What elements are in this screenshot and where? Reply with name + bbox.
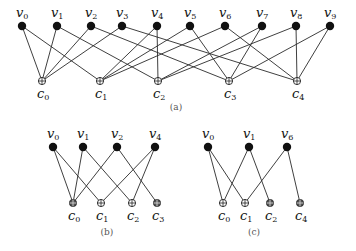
variable-node-v5: v5 bbox=[184, 5, 196, 30]
filled-circle-icon bbox=[87, 22, 95, 30]
variable-label: v1 bbox=[51, 5, 63, 21]
check-label: c2 bbox=[265, 208, 277, 224]
tanner-graph-b: v0v1v2v4c0c1c2c3(b) bbox=[47, 126, 164, 237]
check-label: c3 bbox=[152, 208, 164, 224]
edge-v0-c0 bbox=[208, 147, 223, 203]
check-label: c2 bbox=[127, 208, 139, 224]
subscript: 7 bbox=[263, 12, 268, 21]
check-node-c3: c3 bbox=[224, 77, 236, 102]
edge-v5-c1 bbox=[100, 26, 190, 81]
variable-node-v9: v9 bbox=[324, 5, 336, 30]
edge-v0-c0 bbox=[53, 147, 73, 203]
caption-c: (c) bbox=[248, 227, 260, 237]
edge-v1-c0 bbox=[73, 147, 83, 203]
subscript: 2 bbox=[134, 215, 139, 224]
variable-node-v1: v1 bbox=[51, 5, 63, 30]
subscript: 2 bbox=[272, 215, 277, 224]
filled-circle-icon bbox=[79, 143, 87, 151]
edge-v6-c4 bbox=[225, 26, 297, 81]
edge-v0-c1 bbox=[22, 26, 100, 81]
variable-node-v1: v1 bbox=[77, 126, 89, 151]
subscript: 9 bbox=[331, 12, 336, 21]
filled-circle-icon bbox=[204, 143, 212, 151]
subscript: 4 bbox=[158, 12, 163, 21]
variable-node-v0: v0 bbox=[16, 5, 28, 30]
subscript: 2 bbox=[160, 93, 165, 102]
subscript: 0 bbox=[75, 215, 80, 224]
subscript: 4 bbox=[299, 93, 304, 102]
variable-label: v0 bbox=[202, 126, 214, 142]
variable-label: v4 bbox=[151, 5, 163, 21]
check-label: c4 bbox=[292, 86, 304, 102]
variable-node-v1: v1 bbox=[243, 126, 255, 151]
variable-node-v4: v4 bbox=[149, 126, 161, 151]
edge-v1-c2 bbox=[57, 26, 158, 81]
variable-label: v1 bbox=[243, 126, 255, 142]
edge-v4-c1 bbox=[100, 26, 157, 81]
tanner-graph-figure: v0v1v2v3v4v5v6v7v8v9c0c1c2c3c4(a) v0v1v2… bbox=[0, 0, 356, 251]
check-label: c1 bbox=[95, 86, 107, 102]
filled-circle-icon bbox=[153, 22, 161, 30]
subscript: 2 bbox=[118, 133, 123, 142]
check-label: c0 bbox=[37, 86, 49, 102]
edges bbox=[208, 147, 300, 203]
variable-label: v8 bbox=[290, 5, 302, 21]
filled-circle-icon bbox=[18, 22, 26, 30]
subscript: 1 bbox=[250, 133, 255, 142]
variable-label: v6 bbox=[281, 126, 293, 142]
subscript: 3 bbox=[231, 93, 236, 102]
variable-node-v8: v8 bbox=[290, 5, 302, 30]
edge-v2-c3 bbox=[117, 147, 157, 203]
edge-v8-c4 bbox=[296, 26, 297, 81]
check-label: c0 bbox=[68, 208, 80, 224]
subscript: 1 bbox=[247, 215, 252, 224]
subscript: 1 bbox=[84, 133, 89, 142]
edges bbox=[53, 147, 157, 203]
check-label: c3 bbox=[224, 86, 236, 102]
edge-v7-c2 bbox=[158, 26, 262, 81]
variable-label: v2 bbox=[111, 126, 123, 142]
check-label: c4 bbox=[295, 208, 307, 224]
variable-label: v9 bbox=[324, 5, 336, 21]
edge-v4-c2 bbox=[157, 26, 158, 81]
check-node-c0: c0 bbox=[68, 199, 80, 224]
filled-circle-icon bbox=[151, 143, 159, 151]
check-label: c2 bbox=[153, 86, 165, 102]
caption-b: (b) bbox=[101, 227, 114, 237]
check-node-c3: c3 bbox=[152, 199, 164, 224]
edge-v6-c1 bbox=[100, 26, 225, 81]
variable-label: v7 bbox=[256, 5, 268, 21]
check-node-c0: c0 bbox=[37, 77, 49, 102]
subscript: 0 bbox=[44, 93, 49, 102]
edge-v1-c2 bbox=[83, 147, 132, 203]
edge-v9-c3 bbox=[229, 26, 330, 81]
variable-node-v6: v6 bbox=[281, 126, 293, 151]
filled-circle-icon bbox=[118, 22, 126, 30]
variable-label: v0 bbox=[16, 5, 28, 21]
variable-node-v2: v2 bbox=[111, 126, 123, 151]
subscript: 3 bbox=[159, 215, 164, 224]
subscript: 8 bbox=[297, 12, 302, 21]
edge-v3-c0 bbox=[42, 26, 122, 81]
variable-node-v0: v0 bbox=[47, 126, 59, 151]
variable-node-v6: v6 bbox=[219, 5, 231, 30]
filled-circle-icon bbox=[186, 22, 194, 30]
variable-label: v3 bbox=[116, 5, 128, 21]
caption-a: (a) bbox=[170, 102, 182, 112]
check-node-c0: c0 bbox=[218, 199, 230, 224]
subscript: 0 bbox=[225, 215, 230, 224]
check-node-c2: c2 bbox=[153, 77, 165, 102]
variable-label: v1 bbox=[77, 126, 89, 142]
variable-label: v0 bbox=[47, 126, 59, 142]
subscript: 6 bbox=[226, 12, 231, 21]
variable-node-v7: v7 bbox=[256, 5, 268, 30]
edge-v0-c1 bbox=[53, 147, 101, 203]
variable-node-v3: v3 bbox=[116, 5, 128, 30]
subscript: 4 bbox=[156, 133, 161, 142]
edge-v6-c1 bbox=[245, 147, 287, 203]
check-node-c1: c1 bbox=[240, 199, 252, 224]
subscript: 1 bbox=[58, 12, 63, 21]
edge-v8-c2 bbox=[158, 26, 296, 81]
subscript: 5 bbox=[191, 12, 196, 21]
variable-node-v4: v4 bbox=[151, 5, 163, 30]
